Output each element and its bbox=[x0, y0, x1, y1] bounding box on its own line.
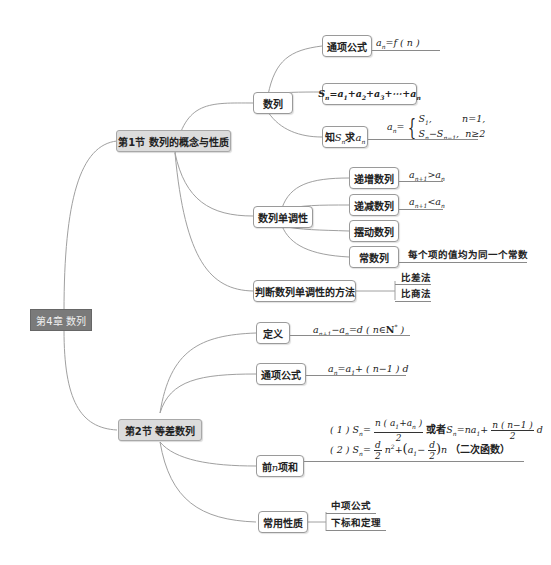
common-properties-label: 常用性质 bbox=[263, 515, 303, 530]
partial-sum-formula-2: ( 2 ) Sn= d2 n2+(a1− d2)n （二次函数） bbox=[330, 440, 510, 461]
definition-label: 定义 bbox=[263, 326, 283, 341]
partial-sum-label: 前n项和 bbox=[262, 459, 298, 474]
zhi-sn-label: 知Sn求an bbox=[325, 129, 366, 145]
underline bbox=[372, 50, 440, 51]
tongxiang-formula-2: an=a1+ ( n−1 ) d bbox=[328, 363, 409, 376]
bicha-item[interactable]: 比差法 bbox=[401, 270, 431, 284]
root-node[interactable]: 第4章 数列 bbox=[30, 309, 92, 331]
zhi-sn-node[interactable]: 知Sn求an bbox=[322, 126, 368, 148]
increasing-formula: an+1>an bbox=[409, 169, 445, 182]
shulie-label: 数列 bbox=[263, 96, 283, 111]
underline bbox=[399, 209, 443, 210]
root-label: 第4章 数列 bbox=[36, 313, 86, 328]
monotonic-node[interactable]: 数列单调性 bbox=[253, 206, 313, 228]
underline bbox=[326, 530, 386, 531]
decreasing-node[interactable]: 递减数列 bbox=[349, 194, 399, 216]
partial-sum-node[interactable]: 前n项和 bbox=[256, 455, 304, 477]
section-2-node[interactable]: 第2节 等差数列 bbox=[118, 419, 202, 441]
underline bbox=[399, 181, 443, 182]
tongxiang-node-1[interactable]: 通项公式 bbox=[322, 35, 372, 57]
constant-node[interactable]: 常数列 bbox=[349, 246, 399, 268]
decreasing-formula: an+1<an bbox=[409, 196, 445, 209]
underline bbox=[399, 262, 527, 263]
sum-formula-node[interactable]: Sn=a1+a2+a3+⋯+an bbox=[322, 83, 417, 105]
underline bbox=[395, 284, 431, 285]
tongxiang-label-2: 通项公式 bbox=[261, 367, 301, 382]
tongxiang-label-1: 通项公式 bbox=[327, 39, 367, 54]
underline bbox=[395, 301, 431, 302]
judge-method-label: 判断数列单调性的方法 bbox=[255, 284, 355, 299]
middle-term-item[interactable]: 中项公式 bbox=[331, 498, 371, 512]
section-2-label: 第2节 等差数列 bbox=[125, 423, 195, 438]
oscillating-node[interactable]: 摆动数列 bbox=[349, 220, 399, 242]
definition-node[interactable]: 定义 bbox=[256, 322, 290, 344]
subscript-sum-item[interactable]: 下标和定理 bbox=[331, 515, 381, 529]
underline bbox=[304, 461, 524, 462]
increasing-label: 递增数列 bbox=[354, 171, 394, 186]
sum-formula: Sn=a1+a2+a3+⋯+an bbox=[318, 88, 421, 101]
bishang-item[interactable]: 比商法 bbox=[401, 286, 431, 300]
tongxiang-node-2[interactable]: 通项公式 bbox=[256, 363, 306, 385]
tongxiang-formula-1: an=f ( n ) bbox=[376, 37, 420, 50]
underline bbox=[326, 513, 376, 514]
decreasing-label: 递减数列 bbox=[354, 198, 394, 213]
shulie-node[interactable]: 数列 bbox=[253, 92, 293, 114]
common-properties-node[interactable]: 常用性质 bbox=[258, 511, 308, 533]
oscillating-label: 摆动数列 bbox=[354, 224, 394, 239]
constant-label: 常数列 bbox=[359, 250, 389, 265]
judge-method-node[interactable]: 判断数列单调性的方法 bbox=[253, 280, 356, 302]
underline bbox=[368, 139, 478, 140]
section-1-node[interactable]: 第1节 数列的概念与性质 bbox=[116, 130, 231, 152]
increasing-node[interactable]: 递增数列 bbox=[349, 167, 399, 189]
underline bbox=[306, 375, 406, 376]
constant-note: 每个项的值均为同一个常数 bbox=[408, 246, 528, 262]
monotonic-label: 数列单调性 bbox=[258, 210, 308, 225]
underline bbox=[290, 335, 410, 336]
section-1-label: 第1节 数列的概念与性质 bbox=[118, 134, 228, 149]
